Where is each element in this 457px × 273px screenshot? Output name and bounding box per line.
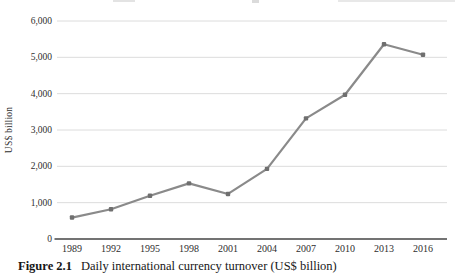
- figure-caption: Figure 2.1Daily international currency t…: [18, 258, 448, 273]
- x-tick-label: 2001: [206, 243, 250, 255]
- y-tick-label: 6,000: [8, 15, 52, 27]
- x-tick-label: 2010: [323, 243, 367, 255]
- y-tick-label: 3,000: [8, 124, 52, 136]
- figure-page: US$ billion 01,0002,0003,0004,0005,0006,…: [0, 0, 457, 273]
- fx-turnover-line-chart: US$ billion 01,0002,0003,0004,0005,0006,…: [0, 0, 457, 260]
- plot-area: [57, 21, 447, 245]
- y-tick-label: 5,000: [8, 51, 52, 63]
- figure-caption-text: Daily international currency turnover (U…: [81, 259, 337, 273]
- y-tick-label: 0: [8, 233, 52, 245]
- x-tick-label: 1998: [167, 243, 211, 255]
- x-tick-label: 2013: [362, 243, 406, 255]
- x-tick-label: 2007: [284, 243, 328, 255]
- figure-number: Figure 2.1: [18, 259, 72, 273]
- y-tick-label: 2,000: [8, 160, 52, 172]
- x-tick-label: 2004: [245, 243, 289, 255]
- y-tick-label: 4,000: [8, 88, 52, 100]
- x-tick-label: 1989: [50, 243, 94, 255]
- y-tick-label: 1,000: [8, 197, 52, 209]
- x-tick-label: 1995: [128, 243, 172, 255]
- x-tick-label: 2016: [401, 243, 445, 255]
- x-tick-label: 1992: [89, 243, 133, 255]
